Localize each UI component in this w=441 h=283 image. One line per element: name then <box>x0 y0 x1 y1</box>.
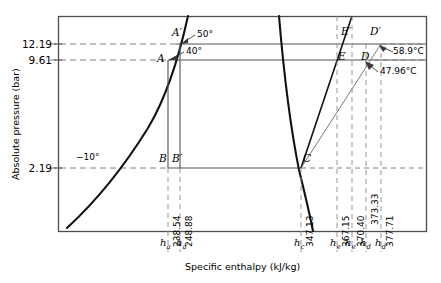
state-point-label-D: D <box>361 50 369 62</box>
state-point-label-E-prime: E′ <box>341 25 351 37</box>
x-symbol-h-e-prime-sub: e′ <box>351 243 357 251</box>
x-symbol-h-e-sub: e <box>336 243 340 251</box>
x-symbol-h-d-sub: d <box>366 243 370 251</box>
x-symbol-h-c-sub: c <box>300 243 304 251</box>
x-symbol-h-d-prime-sub: d′ <box>381 243 387 251</box>
state-point-label-C: C <box>303 152 311 164</box>
x-symbol-h-e: he <box>330 237 341 251</box>
saturated-liquid-curve <box>67 16 188 228</box>
annotation-isotherm-40: 40° <box>186 46 202 56</box>
state-point-label-D-prime: D′ <box>370 25 381 37</box>
x-symbol-h-a: ha <box>160 237 171 251</box>
state-point-label-A: A <box>157 52 165 64</box>
x-value-347-13: 347.13 <box>305 216 315 248</box>
y-tick-label-2-19: 2.19 <box>8 162 52 174</box>
state-point-label-A-prime: A′ <box>172 26 182 38</box>
leader-arrow-temp-58-9 <box>379 45 387 52</box>
x-symbol-h-c: hc <box>294 237 304 251</box>
annotation-temp-47-96: 47.96°C <box>380 66 417 76</box>
annotation-isotherm-50: 50° <box>197 29 213 39</box>
x-symbol-h-a-prime-sub: a′ <box>182 243 188 251</box>
state-point-label-E: E <box>338 50 346 62</box>
x-value-373-33: 373.33 <box>370 194 380 226</box>
saturated-vapour-curve <box>279 16 313 231</box>
x-symbol-h-e-prime: he′ <box>345 237 357 251</box>
y-tick-label-9-61: 9.61 <box>8 54 52 66</box>
ph-diagram-figure: Absolute pressure (bar) Specific enthalp… <box>0 0 441 283</box>
state-point-label-B: B <box>159 152 167 164</box>
x-symbol-h-d-prime: hd′ <box>375 237 388 251</box>
annotation-temp-58-9: 58.9°C <box>393 46 424 56</box>
x-symbol-h-a-prime: ha′ <box>176 237 188 251</box>
compression-line-C-Dprime <box>301 44 381 168</box>
y-tick-label-12-19: 12.19 <box>8 38 52 50</box>
x-symbol-h-d: hd <box>360 237 371 251</box>
state-point-label-B-prime: B′ <box>172 152 182 164</box>
annotation-isotherm-minus-10: −10° <box>76 152 100 162</box>
x-symbol-h-a-sub: a <box>166 243 170 251</box>
x-axis-title: Specific enthalpy (kJ/kg) <box>185 261 300 272</box>
compression-line-C-Eprime <box>301 16 352 168</box>
